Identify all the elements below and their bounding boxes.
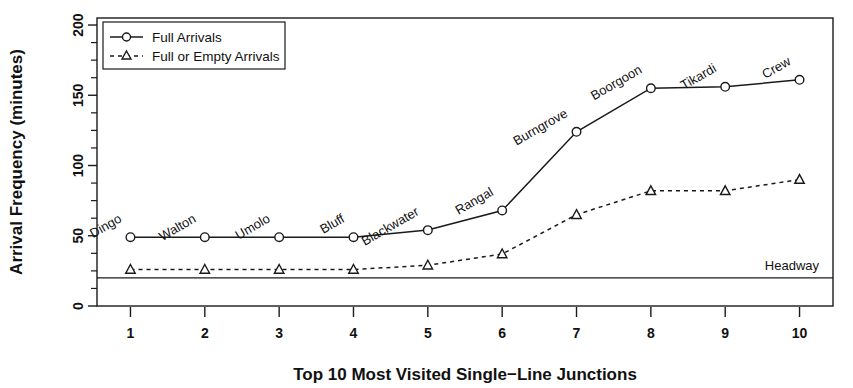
data-point-marker-triangle [720, 186, 730, 195]
x-tick-label: 4 [350, 325, 358, 341]
y-tick-label: 100 [70, 154, 86, 178]
data-point-marker-circle [721, 83, 730, 92]
data-point-marker-circle [349, 233, 358, 242]
x-tick-label: 9 [721, 325, 729, 341]
data-point-label: Blackwater [359, 203, 422, 248]
y-tick-label: 150 [70, 83, 86, 107]
legend-marker-circle-icon [123, 33, 131, 41]
data-point-label: Burngrove [511, 105, 570, 148]
data-point-label: Crew [759, 53, 793, 81]
data-point-marker-circle [647, 84, 656, 93]
data-point-label: Walton [156, 211, 198, 244]
data-point-marker-triangle [200, 264, 210, 273]
y-axis-ticks [88, 25, 97, 306]
data-point-marker-circle [498, 206, 507, 215]
x-tick-label: 7 [573, 325, 581, 341]
series-markers-full-or-empty-arrivals [126, 175, 805, 274]
x-axis-ticks [130, 307, 799, 317]
x-tick-label: 8 [647, 325, 655, 341]
data-point-labels: DingoWaltonUmoloBluffBlackwaterRangalBur… [87, 53, 794, 248]
y-tick-label: 50 [70, 228, 86, 244]
x-tick-label: 1 [127, 325, 135, 341]
series-markers-full-arrivals [126, 76, 804, 242]
headway-label: Headway [765, 258, 820, 273]
data-point-label: Bluff [317, 211, 347, 237]
series-line-full-or-empty-arrivals [131, 180, 800, 270]
y-tick-label: 200 [70, 13, 86, 37]
y-tick-label: 0 [70, 302, 86, 310]
data-point-marker-circle [572, 127, 581, 136]
legend-label-full-or-empty-arrivals: Full or Empty Arrivals [152, 49, 280, 64]
data-point-marker-circle [795, 76, 804, 85]
data-point-label: Rangal [452, 184, 495, 218]
x-axis-title: Top 10 Most Visited Single−Line Junction… [293, 365, 637, 384]
y-axis-tick-labels: 050100150200 [70, 13, 86, 310]
chart-figure: 050100150200 12345678910 Headway DingoWa… [0, 0, 853, 388]
data-point-label: Dingo [87, 211, 124, 241]
data-point-marker-triangle [572, 210, 582, 219]
x-tick-label: 5 [424, 325, 432, 341]
x-tick-label: 2 [201, 325, 209, 341]
x-tick-label: 10 [792, 325, 808, 341]
y-axis-title: Arrival Frequency (minutes) [7, 49, 26, 275]
data-point-marker-triangle [423, 260, 433, 269]
data-point-marker-circle [200, 233, 209, 242]
x-axis-tick-labels: 12345678910 [127, 325, 808, 341]
data-point-marker-circle [126, 233, 135, 242]
data-point-marker-triangle [497, 249, 507, 258]
line-chart-canvas: 050100150200 12345678910 Headway DingoWa… [0, 0, 853, 388]
x-tick-label: 3 [275, 325, 283, 341]
x-tick-label: 6 [498, 325, 506, 341]
data-point-marker-circle [275, 233, 284, 242]
data-point-marker-triangle [795, 175, 805, 184]
data-point-marker-circle [424, 226, 433, 235]
legend-label-full-arrivals: Full Arrivals [152, 30, 222, 45]
chart-legend[interactable]: Full Arrivals Full or Empty Arrivals [103, 22, 285, 69]
